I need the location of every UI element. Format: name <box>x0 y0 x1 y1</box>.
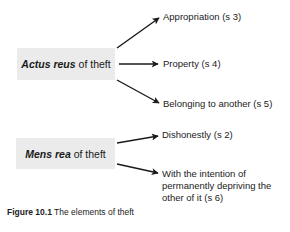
figure-caption-text: The elements of theft <box>52 207 134 217</box>
arrow-to-intention <box>117 164 158 173</box>
label-intention-line1: With the intention of <box>162 168 271 180</box>
mens-rea-box: Mens rea of theft <box>16 138 115 169</box>
figure-caption: Figure 10.1 The elements of theft <box>7 207 134 217</box>
label-appropriation: Appropriation (s 3) <box>163 11 241 23</box>
actus-reus-rest: of theft <box>76 58 111 70</box>
arrow-to-appropriation <box>117 18 159 48</box>
mens-rea-rest: of theft <box>71 148 106 160</box>
label-intention-line3: other of it (s 6) <box>162 192 271 204</box>
actus-reus-emphasis: Actus reus <box>21 58 75 70</box>
label-intention: With the intention of permanently depriv… <box>162 168 271 204</box>
label-intention-line2: permanently depriving the <box>162 180 271 192</box>
figure-number: Figure 10.1 <box>7 207 52 217</box>
arrow-to-dishonestly <box>117 136 158 143</box>
label-belonging: Belonging to another (s 5) <box>163 98 272 110</box>
label-property: Property (s 4) <box>163 58 221 70</box>
arrow-to-belonging <box>117 80 159 103</box>
label-dishonestly: Dishonestly (s 2) <box>162 129 233 141</box>
actus-reus-box: Actus reus of theft <box>17 48 115 80</box>
mens-rea-emphasis: Mens rea <box>25 148 71 160</box>
